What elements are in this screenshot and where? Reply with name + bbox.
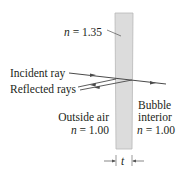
reflected-ray-1 bbox=[78, 79, 116, 87]
incident-arrow-icon bbox=[90, 74, 96, 78]
film-index-label: n = 1.35 bbox=[64, 26, 102, 38]
outside-index-label: n = 1.00 bbox=[58, 124, 109, 136]
outside-air-label: Outside air bbox=[58, 111, 109, 123]
bubble-label: Bubble bbox=[138, 99, 171, 111]
soap-film bbox=[115, 13, 133, 149]
thickness-label: t bbox=[121, 155, 124, 167]
incident-ray-label: Incident ray bbox=[10, 67, 65, 79]
interior-label: interior bbox=[138, 111, 172, 123]
thickness-arrow-right-icon bbox=[132, 160, 136, 163]
reflected-rays-label: Reflected rays bbox=[10, 83, 76, 95]
thickness-arrow-left-icon bbox=[112, 160, 116, 163]
interior-index-label: n = 1.00 bbox=[137, 124, 175, 136]
transmitted-arrow-icon bbox=[150, 81, 156, 85]
